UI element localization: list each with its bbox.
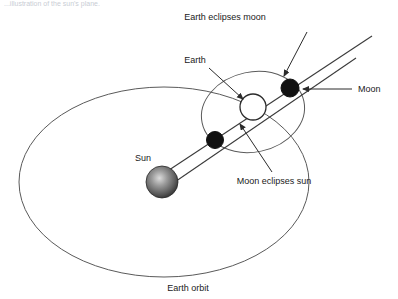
label-sun: Sun	[135, 153, 151, 163]
label-earth-orbit: Earth orbit	[167, 283, 209, 293]
label-earth-eclipses-moon: Earth eclipses moon	[184, 12, 266, 22]
earth-body	[240, 94, 266, 120]
label-moon-eclipses-sun: Moon eclipses sun	[237, 176, 312, 186]
leader-moon-eclipses-sun	[240, 124, 272, 172]
moon-body-new	[207, 132, 224, 149]
label-earth: Earth	[184, 55, 206, 65]
label-moon: Moon	[358, 84, 381, 94]
eclipse-diagram-figure: Earth eclipses moon Earth Moon Sun Moon …	[0, 0, 398, 299]
eclipse-diagram-svg: Earth eclipses moon Earth Moon Sun Moon …	[0, 0, 398, 299]
leader-earth-eclipses-moon	[284, 32, 307, 76]
moon-body-full	[281, 79, 299, 97]
sun-ray-lower	[166, 58, 356, 188]
leader-earth	[209, 68, 243, 99]
sun-body	[146, 166, 178, 198]
